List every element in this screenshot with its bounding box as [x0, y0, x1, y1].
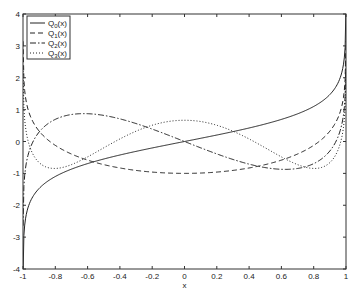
y-tick-label: 3	[16, 42, 21, 51]
y-tick-label: -2	[13, 201, 21, 210]
y-tick-label: 4	[16, 10, 21, 19]
x-tick-label: 0.8	[308, 272, 320, 281]
legend-label-q0: Q0(x)	[48, 19, 67, 29]
x-tick-label: 1	[344, 272, 349, 281]
x-tick-labels: -1-0.8-0.6-0.4-0.200.20.40.60.81	[19, 272, 348, 281]
x-tick-label: 0.2	[211, 272, 223, 281]
y-tick-labels: -4-3-2-101234	[13, 10, 21, 274]
legend-label-q3: Q3(x)	[48, 49, 67, 59]
plot-curves	[23, 9, 346, 273]
x-tick-label: -0.8	[48, 272, 62, 281]
x-tick-label: -1	[19, 272, 27, 281]
legend-label-q2: Q2(x)	[48, 39, 67, 49]
series-line-q3	[23, 68, 346, 168]
series-line-q1	[23, 41, 346, 173]
x-axis-label: x	[183, 281, 187, 290]
y-tick-label: -4	[13, 265, 21, 274]
legend-label-q1: Q1(x)	[48, 29, 67, 39]
y-tick-label: 1	[16, 106, 21, 115]
x-tick-label: 0.6	[276, 272, 288, 281]
y-tick-label: -1	[13, 169, 21, 178]
x-tick-label: 0	[182, 272, 187, 281]
legend: Q0(x)Q1(x)Q2(x)Q3(x)	[27, 16, 70, 59]
y-tick-label: -3	[13, 233, 21, 242]
series-line-q0	[23, 9, 346, 273]
x-tick-label: -0.2	[145, 272, 159, 281]
x-tick-label: -0.4	[113, 272, 127, 281]
y-tick-label: 2	[16, 74, 21, 83]
chart: -1-0.8-0.6-0.4-0.200.20.40.60.81 -4-3-2-…	[0, 0, 361, 300]
x-tick-label: -0.6	[81, 272, 95, 281]
y-tick-label: 0	[16, 138, 21, 147]
x-tick-label: 0.4	[244, 272, 256, 281]
